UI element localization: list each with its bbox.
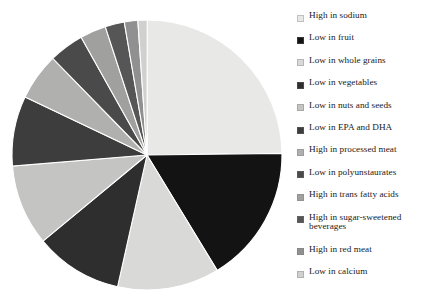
legend-item[interactable]: High in trans fatty acids bbox=[297, 190, 399, 201]
legend-swatch-icon bbox=[297, 127, 304, 134]
legend-item-label: High in processed meat bbox=[309, 145, 397, 155]
pie-chart-plot-area bbox=[0, 0, 292, 304]
legend-swatch-icon bbox=[297, 271, 304, 278]
legend-item-label: High in sugar-sweetened beverages bbox=[309, 213, 437, 232]
legend-swatch-icon bbox=[297, 59, 304, 66]
legend-swatch-icon bbox=[297, 216, 304, 223]
legend-swatch-icon bbox=[297, 37, 304, 44]
legend-swatch-icon bbox=[297, 171, 304, 178]
legend-swatch-icon bbox=[297, 15, 304, 22]
legend-item[interactable]: Low in fruit bbox=[297, 33, 354, 44]
legend-swatch-icon bbox=[297, 82, 304, 89]
legend-item[interactable]: Low in polyunstaurates bbox=[297, 168, 396, 179]
legend-item[interactable]: High in processed meat bbox=[297, 145, 397, 156]
legend-item-label: High in red meat bbox=[309, 245, 372, 255]
legend-swatch-icon bbox=[297, 248, 304, 255]
legend-swatch-icon bbox=[297, 194, 304, 201]
legend-item-label: Low in EPA and DHA bbox=[309, 123, 392, 133]
legend-item[interactable]: High in red meat bbox=[297, 245, 372, 256]
legend-item-label: Low in polyunstaurates bbox=[309, 168, 396, 178]
legend-swatch-icon bbox=[297, 149, 304, 156]
legend-item[interactable]: Low in calcium bbox=[297, 267, 367, 278]
pie-chart-figure: High in sodiumLow in fruitLow in whole g… bbox=[0, 0, 439, 304]
pie-slice bbox=[147, 20, 282, 155]
legend-item[interactable]: Low in vegetables bbox=[297, 78, 377, 89]
legend-item-label: Low in fruit bbox=[309, 33, 354, 43]
chart-legend: High in sodiumLow in fruitLow in whole g… bbox=[297, 11, 439, 301]
legend-swatch-icon bbox=[297, 104, 304, 111]
legend-item[interactable]: Low in whole grains bbox=[297, 56, 386, 67]
legend-item-label: High in sodium bbox=[309, 11, 367, 21]
legend-item[interactable]: Low in nuts and seeds bbox=[297, 101, 392, 112]
legend-item[interactable]: High in sodium bbox=[297, 11, 367, 22]
pie-chart-svg bbox=[0, 0, 292, 304]
pie-slice-group bbox=[12, 20, 282, 290]
legend-item-label: Low in nuts and seeds bbox=[309, 101, 392, 111]
legend-item-label: Low in calcium bbox=[309, 267, 367, 277]
legend-item[interactable]: Low in EPA and DHA bbox=[297, 123, 392, 134]
legend-item-label: Low in vegetables bbox=[309, 78, 377, 88]
legend-item[interactable]: High in sugar-sweetened beverages bbox=[297, 213, 437, 232]
legend-item-label: High in trans fatty acids bbox=[309, 190, 399, 200]
legend-item-label: Low in whole grains bbox=[309, 56, 386, 66]
